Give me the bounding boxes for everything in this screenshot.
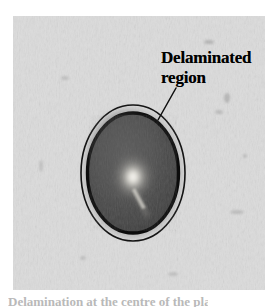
figure-root: Delaminated region Delamination at the c…: [0, 0, 277, 308]
caption-partial: Delamination at the centre of the plate: [8, 296, 208, 307]
annotation-line-1: Delaminated: [161, 48, 273, 68]
impact-bright-spot: [123, 165, 144, 190]
annotation-line-2: region: [161, 68, 273, 88]
annotation-delaminated-region: Delaminated region: [161, 48, 273, 88]
